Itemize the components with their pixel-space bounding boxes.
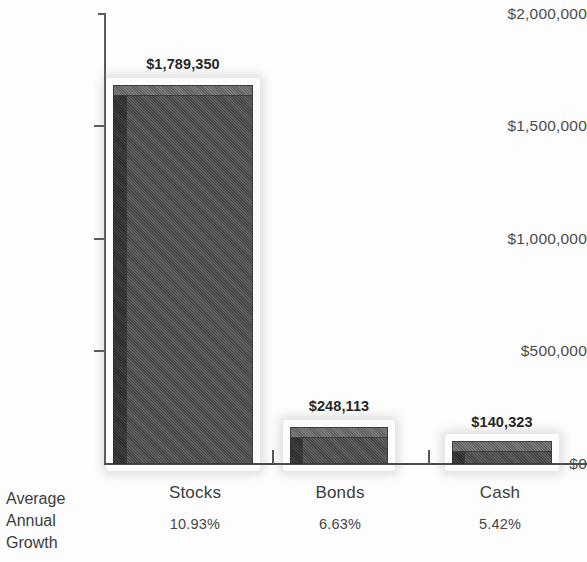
y-tick-1000000 bbox=[94, 238, 106, 240]
bar-chart-figure: $2,000,000 $1,500,000 $1,000,000 $500,00… bbox=[0, 0, 587, 562]
bar-bonds bbox=[290, 427, 388, 464]
bar-value-label-cash: $140,323 bbox=[450, 414, 554, 430]
bar-bonds-front-face bbox=[302, 437, 388, 464]
x-axis-separator-1 bbox=[272, 450, 274, 464]
bar-stocks-front-face bbox=[126, 95, 253, 464]
bar-value-label-bonds: $248,113 bbox=[289, 398, 389, 414]
growth-caption-line-2: Annual bbox=[6, 510, 65, 532]
y-axis-label-1000000: $1,000,000 bbox=[495, 230, 587, 248]
y-axis-label-500000: $500,000 bbox=[495, 342, 587, 360]
y-tick-1500000 bbox=[94, 125, 106, 127]
y-tick-2000000 bbox=[98, 13, 106, 15]
bar-stocks bbox=[113, 85, 253, 464]
x-category-label-cash: Cash bbox=[448, 483, 552, 503]
y-tick-500000 bbox=[94, 350, 106, 352]
growth-value-stocks: 10.93% bbox=[133, 516, 257, 532]
x-axis-separator-2 bbox=[428, 450, 430, 464]
bar-cash bbox=[452, 441, 552, 464]
bar-value-label-stocks: $1,789,350 bbox=[113, 56, 253, 72]
x-category-label-bonds: Bonds bbox=[288, 483, 392, 503]
bar-cash-front-face bbox=[464, 451, 552, 464]
x-category-label-stocks: Stocks bbox=[133, 483, 257, 503]
growth-value-bonds: 6.63% bbox=[288, 516, 392, 532]
average-annual-growth-caption: Average Annual Growth bbox=[6, 488, 65, 554]
growth-value-cash: 5.42% bbox=[448, 516, 552, 532]
growth-caption-line-3: Growth bbox=[6, 532, 65, 554]
bar-stocks-side-face bbox=[113, 95, 127, 464]
plot-area: $2,000,000 $1,500,000 $1,000,000 $500,00… bbox=[0, 0, 587, 562]
growth-caption-line-1: Average bbox=[6, 488, 65, 510]
y-axis-label-2000000: $2,000,000 bbox=[495, 5, 587, 23]
y-axis-label-1500000: $1,500,000 bbox=[495, 117, 587, 135]
